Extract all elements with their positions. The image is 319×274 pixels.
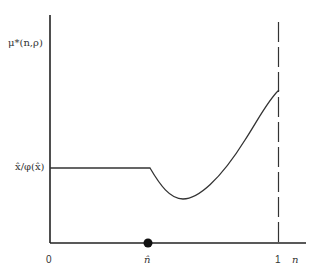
y-axis-label: μ*(n,ρ) — [8, 37, 43, 48]
x-tick-0: 0 — [46, 254, 52, 265]
x-axis-label: n — [292, 254, 298, 265]
y-tick-label: x̂/φ(x̂) — [15, 161, 44, 172]
n-hat-marker — [144, 239, 153, 248]
x-tick-1: 1 — [275, 254, 281, 265]
diagram-canvas — [0, 0, 319, 274]
mu-curve — [50, 90, 279, 199]
x-tick-n-hat: n̂ — [144, 254, 150, 265]
